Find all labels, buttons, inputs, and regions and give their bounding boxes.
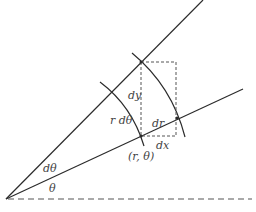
label-dtheta: dθ xyxy=(43,162,57,175)
point-r-theta xyxy=(140,135,143,138)
label-dy: dy xyxy=(128,89,142,102)
upper-corner-point xyxy=(140,61,143,64)
outer-corner-point xyxy=(176,117,179,120)
upper-ray xyxy=(6,0,203,199)
label-theta: θ xyxy=(49,182,56,195)
label-dr: dr xyxy=(152,117,165,130)
polar-area-element-diagram: dy r dθ dr dx (r, θ) dθ θ xyxy=(0,0,256,212)
label-point: (r, θ) xyxy=(128,150,154,163)
label-r-dtheta: r dθ xyxy=(110,114,133,127)
label-dx: dx xyxy=(156,139,170,152)
